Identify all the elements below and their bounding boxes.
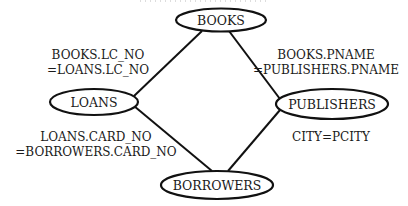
edge-label-books-loans: BOOKS.LC_NO =LOANS.LC_NO bbox=[47, 48, 149, 77]
edge-label-line: BOOKS.LC_NO bbox=[52, 48, 145, 62]
edge-label-line: =BORROWERS.CARD_NO bbox=[15, 145, 177, 159]
edge-label-line: =LOANS.LC_NO bbox=[47, 63, 149, 77]
node-loans: LOANS bbox=[50, 89, 138, 115]
edge-label-publishers-borrowers: CITY=PCITY bbox=[292, 130, 371, 144]
node-books: BOOKS bbox=[176, 9, 266, 32]
join-graph-diagram: BOOKS.LC_NO =LOANS.LC_NO BOOKS.PNAME =PU… bbox=[0, 0, 408, 206]
node-publishers: PUBLISHERS bbox=[276, 89, 388, 119]
node-label: PUBLISHERS bbox=[288, 97, 376, 112]
edge-label-line: CITY=PCITY bbox=[292, 130, 371, 144]
edge-label-books-publishers: BOOKS.PNAME =PUBLISHERS.PNAME bbox=[253, 48, 399, 77]
edge-label-line: =PUBLISHERS.PNAME bbox=[253, 63, 399, 77]
node-label: LOANS bbox=[70, 95, 117, 110]
node-label: BOOKS bbox=[197, 13, 245, 28]
edge-publishers-borrowers bbox=[228, 110, 280, 171]
edge-label-loans-borrowers: LOANS.CARD_NO =BORROWERS.CARD_NO bbox=[15, 130, 177, 159]
edge-label-line: LOANS.CARD_NO bbox=[40, 130, 152, 144]
node-label: BORROWERS bbox=[173, 178, 262, 193]
edge-label-line: BOOKS.PNAME bbox=[277, 48, 375, 62]
node-borrowers: BORROWERS bbox=[161, 171, 273, 199]
